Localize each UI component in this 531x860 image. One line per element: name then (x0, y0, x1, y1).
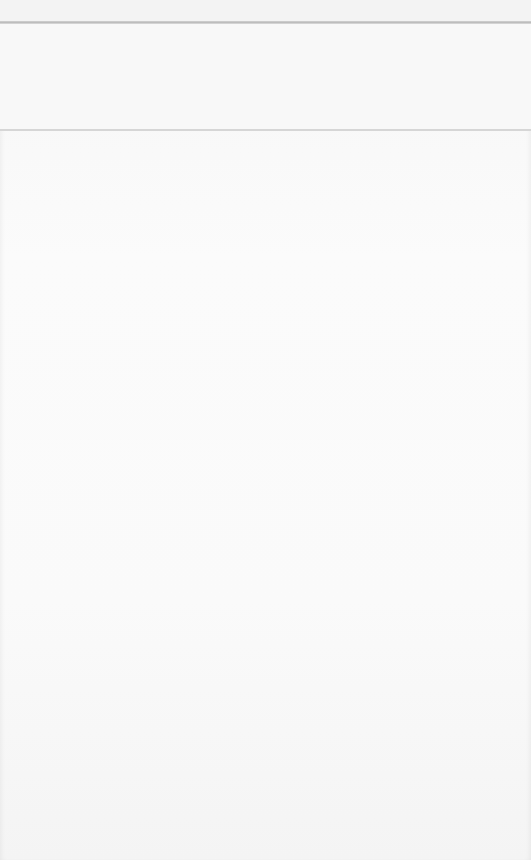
content-area (0, 131, 531, 860)
top-strip (0, 0, 531, 21)
blank-page (0, 0, 531, 860)
header-area (0, 24, 531, 129)
